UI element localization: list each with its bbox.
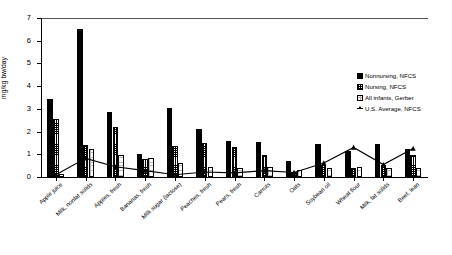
x-label-anchor: Milk sugar (lactose) <box>179 182 180 183</box>
x-axis-label: Milk, fat solids <box>360 182 391 211</box>
legend-swatch-checkered-square-icon <box>357 84 363 90</box>
x-tick <box>413 177 414 181</box>
legend-item-nursing: Nursing, NFCS <box>357 81 452 92</box>
x-tick <box>235 177 236 181</box>
y-tick-label: 3 <box>27 105 31 113</box>
x-tick <box>264 177 265 181</box>
y-tick: 0 <box>37 177 41 178</box>
x-axis-label: Oats <box>289 182 302 195</box>
x-tick <box>205 177 206 181</box>
line-marker-star <box>321 160 326 165</box>
x-label-anchor: Peaches, fresh <box>209 182 210 183</box>
y-tick-label: 4 <box>27 82 31 90</box>
legend-swatch-solid-square-icon <box>357 73 363 79</box>
y-tick-label: 2 <box>27 128 31 136</box>
legend-label: U.S. Average, NFCS <box>365 105 421 112</box>
line-marker-star <box>411 146 416 151</box>
chart-container: mg/kg bw/day 01234567 Apple juiceMilk, n… <box>0 0 452 255</box>
x-axis-label: Apple juice <box>38 182 63 206</box>
x-tick <box>145 177 146 181</box>
legend-label: All infants, Gerber <box>365 94 414 101</box>
x-label-anchor: Carrots <box>268 182 269 183</box>
y-tick-label: 1 <box>27 151 31 159</box>
x-label-anchor: Milk, nonfat solids <box>90 182 91 183</box>
x-label-anchor: Soybean oil <box>328 182 329 183</box>
y-tick-label: 6 <box>27 37 31 45</box>
line-marker-star <box>351 145 356 150</box>
x-tick <box>86 177 87 181</box>
x-axis-label: Carrots <box>254 182 272 199</box>
legend-item-nonnursing: Nonnursing, NFCS <box>357 70 452 81</box>
legend-item-all-infants: All infants, Gerber <box>357 92 452 103</box>
x-tick <box>324 177 325 181</box>
x-axis-label: Peaches, fresh <box>180 182 213 213</box>
chart-legend: Nonnursing, NFCS Nursing, NFCS All infan… <box>357 70 452 114</box>
line-marker-star <box>83 156 88 161</box>
x-tick <box>56 177 57 181</box>
y-axis-title: mg/kg bw/day <box>0 57 7 99</box>
x-axis-label: Pears, fresh <box>215 182 243 208</box>
x-tick <box>175 177 176 181</box>
x-label-anchor: Pears, fresh <box>239 182 240 183</box>
x-tick <box>294 177 295 181</box>
x-tick <box>383 177 384 181</box>
legend-swatch-star-line-icon <box>357 106 363 112</box>
x-axis-label: Wheat flour <box>335 182 361 207</box>
x-label-anchor: Oats <box>298 182 299 183</box>
legend-item-us-average: U.S. Average, NFCS <box>357 103 452 114</box>
x-tick <box>354 177 355 181</box>
x-label-anchor: Apple juice <box>60 182 61 183</box>
x-label-anchor: Milk, fat solids <box>387 182 388 183</box>
x-axis-label: Soybean oil <box>305 182 332 207</box>
y-tick-label: 5 <box>27 60 31 68</box>
x-axis-label: Apples, fresh <box>94 182 124 209</box>
x-label-anchor: Bananas, fresh <box>149 182 150 183</box>
line-marker-star <box>53 172 58 177</box>
legend-label: Nursing, NFCS <box>365 83 406 90</box>
y-tick-label: 7 <box>27 14 31 22</box>
x-label-anchor: Beef, lean <box>417 182 418 183</box>
legend-swatch-dotted-square-icon <box>357 95 363 101</box>
x-tick <box>115 177 116 181</box>
x-label-anchor: Wheat flour <box>358 182 359 183</box>
line-marker-star <box>381 162 386 167</box>
x-label-anchor: Apples, fresh <box>119 182 120 183</box>
legend-label: Nonnursing, NFCS <box>365 72 416 79</box>
y-tick-label: 0 <box>27 173 31 181</box>
x-axis-label: Beef, lean <box>397 182 421 204</box>
